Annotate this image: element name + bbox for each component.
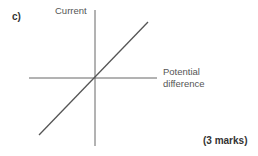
marks-label: (3 marks)	[203, 135, 247, 146]
iv-graph	[0, 0, 258, 156]
